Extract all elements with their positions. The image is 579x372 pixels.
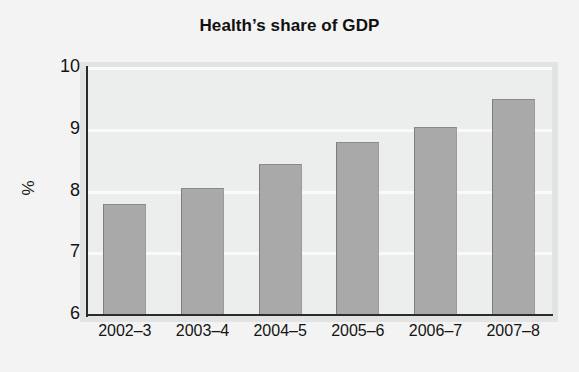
bar-2005–6 — [336, 142, 379, 315]
y-axis-line — [86, 66, 88, 317]
x-tick-label-2002–3: 2002–3 — [86, 322, 164, 340]
y-tick-label-10: 10 — [36, 56, 80, 77]
bar-2007–8 — [492, 99, 535, 315]
bar-2003–4 — [181, 188, 224, 315]
x-axis-line — [86, 314, 553, 316]
chart-figure: Health’s share of GDP % 678910 2002–3200… — [0, 0, 579, 372]
gridline-7 — [86, 252, 552, 255]
x-tick-label-2006–7: 2006–7 — [397, 322, 475, 340]
y-tick-label-6: 6 — [36, 303, 80, 324]
gridline-8 — [86, 191, 552, 194]
bar-2004–5 — [259, 164, 302, 315]
plot-area — [86, 68, 552, 315]
bar-2006–7 — [414, 127, 457, 315]
x-tick-label-2004–5: 2004–5 — [241, 322, 319, 340]
x-tick-label-2007–8: 2007–8 — [474, 322, 552, 340]
x-tick-label-2005–6: 2005–6 — [319, 322, 397, 340]
bar-2002–3 — [103, 204, 146, 315]
gridline-10 — [86, 67, 552, 70]
chart-title: Health’s share of GDP — [0, 16, 579, 36]
x-tick-label-2003–4: 2003–4 — [164, 322, 242, 340]
y-tick-label-7: 7 — [36, 241, 80, 262]
gridline-9 — [86, 129, 552, 132]
y-tick-label-9: 9 — [36, 118, 80, 139]
y-tick-label-8: 8 — [36, 180, 80, 201]
